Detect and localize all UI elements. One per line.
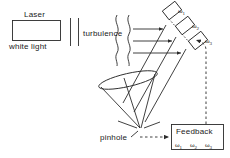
feedback-omega-2-label: ω2	[190, 141, 197, 150]
feedback-omega-3-label: ω3	[205, 141, 212, 150]
signal-feedback-to-detectors	[196, 40, 206, 124]
feedback-label: Feedback	[176, 128, 213, 136]
pinhole-plate-right	[144, 122, 160, 128]
white-light-label: white light	[9, 43, 47, 51]
detector-1-omega-index: 1	[183, 11, 186, 16]
detector-link-2-3	[182, 34, 189, 42]
laser-box	[13, 21, 61, 41]
pinhole-label: pinhole	[100, 134, 127, 142]
feedback-omega-3-index: 3	[210, 145, 213, 150]
feedback-omega-1-index: 1	[180, 145, 183, 150]
turbulence-label: turbulence	[83, 30, 122, 38]
collection-ray-3	[145, 49, 186, 122]
turbulence-wave-1	[116, 15, 118, 66]
laser-label: Laser	[24, 11, 45, 19]
optical-setup-diagram: Laser white light turbulence pinhole Fee…	[0, 0, 230, 158]
feedback-omega-2-index: 2	[195, 145, 198, 150]
detector-link-1-2	[169, 19, 176, 27]
detector-3-label: ω3	[205, 37, 212, 46]
detector-1-label: ω1	[178, 7, 185, 16]
turbulence-wave-2	[128, 15, 130, 66]
detector-2-omega-index: 2	[197, 26, 200, 31]
detector-2-label: ω2	[192, 22, 199, 31]
detector-3-omega-index: 3	[210, 41, 213, 46]
pinhole-leader	[131, 131, 138, 137]
feedback-omega-1-label: ω1	[175, 141, 182, 150]
